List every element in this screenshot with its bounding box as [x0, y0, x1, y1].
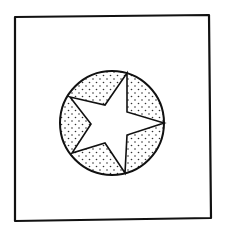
diagram-canvas [0, 0, 226, 234]
